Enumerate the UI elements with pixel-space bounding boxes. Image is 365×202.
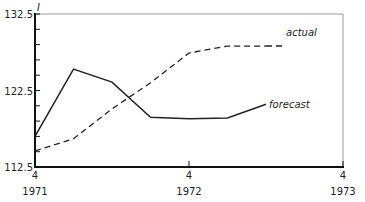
x-tick-quarter: 4 [340, 170, 346, 181]
y-tick-label: 122.5 [4, 86, 33, 97]
x-tick-year: 1971 [22, 186, 47, 197]
forecast-series-label: forecast [269, 99, 311, 110]
forecast-series-line [35, 69, 266, 136]
y-tick-label: 132.5 [4, 9, 33, 20]
y-tick-label: 112.5 [4, 162, 33, 173]
actual-series-label: actual [286, 27, 317, 38]
x-tick-year: 1973 [330, 186, 355, 197]
actual-series-line [35, 46, 266, 151]
x-tick-quarter: 4 [32, 170, 38, 181]
x-tick-quarter: 4 [186, 170, 192, 181]
y-axis-symbol: I [37, 2, 40, 13]
x-tick-year: 1972 [176, 186, 201, 197]
line-chart: 112.5122.5132.5 419714197241973 I actual… [0, 0, 365, 202]
